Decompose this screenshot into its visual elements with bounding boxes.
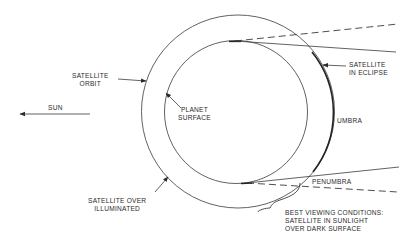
- satellite-over-illuminated-label-line2: ILLUMINATED: [88, 205, 146, 213]
- eclipse-pointer-arrow: [323, 65, 346, 66]
- best-viewing-label-line2: SATELLITE IN SUNLIGHT: [285, 217, 384, 225]
- satellite-orbit-label-line2: ORBIT: [72, 80, 109, 88]
- planet-surface-label-line1: PLANET: [178, 106, 211, 114]
- umbra-label: UMBRA: [337, 117, 362, 125]
- eclipse-arc: [312, 52, 333, 172]
- best-viewing-brace: [258, 183, 300, 212]
- best-viewing-label-line3: OVER DARK SURFACE: [285, 225, 384, 233]
- umbra-upper-line: [235, 41, 396, 52]
- satellite-over-illuminated-label-line1: SATELLITE OVER: [88, 197, 146, 205]
- sun-label: SUN: [48, 104, 63, 112]
- satellite-orbit-label-line1: SATELLITE: [72, 72, 109, 80]
- planet-surface-label-line2: SURFACE: [178, 114, 211, 122]
- penumbra-upper-line: [235, 24, 398, 41]
- satellite-orbit-circle: [142, 15, 335, 208]
- illuminated-pointer-arrow: [155, 177, 168, 192]
- planet-surface-label: PLANET SURFACE: [178, 106, 211, 122]
- orbit-pointer-arrow: [118, 79, 146, 81]
- satellite-in-eclipse-label-line2: IN ECLIPSE: [349, 69, 388, 77]
- penumbra-label: PENUMBRA: [312, 178, 351, 186]
- best-viewing-label-line1: BEST VIEWING CONDITIONS:: [285, 209, 384, 217]
- satellite-in-eclipse-label: SATELLITE IN ECLIPSE: [349, 61, 388, 77]
- satellite-orbit-label: SATELLITE ORBIT: [72, 72, 109, 88]
- satellite-over-illuminated-label: SATELLITE OVER ILLUMINATED: [88, 197, 146, 213]
- satellite-in-eclipse-label-line1: SATELLITE: [349, 61, 388, 69]
- best-viewing-label: BEST VIEWING CONDITIONS: SATELLITE IN SU…: [285, 209, 384, 233]
